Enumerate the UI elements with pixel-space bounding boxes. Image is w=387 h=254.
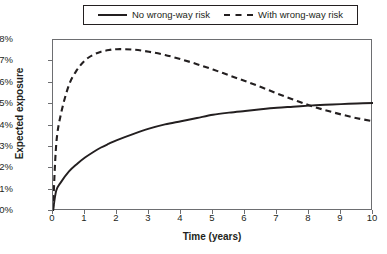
- x-tick-mark: [276, 210, 277, 214]
- x-tick-mark: [52, 210, 53, 214]
- x-tick-mark: [84, 210, 85, 214]
- x-tick-label: 9: [328, 213, 352, 223]
- x-tick-label: 8: [296, 213, 320, 223]
- x-tick-label: 7: [264, 213, 288, 223]
- x-tick-mark: [212, 210, 213, 214]
- y-tick-label: 5%: [0, 98, 13, 108]
- x-tick-mark: [116, 210, 117, 214]
- x-tick-mark: [244, 210, 245, 214]
- x-tick-mark: [372, 210, 373, 214]
- x-tick-mark: [148, 210, 149, 214]
- legend-label-with-wrong-way-risk: With wrong-way risk: [258, 10, 343, 20]
- legend-swatch-solid-line-icon: [98, 14, 127, 16]
- x-tick-label: 10: [360, 213, 384, 223]
- chart-figure: No wrong-way risk With wrong-way risk Ex…: [0, 0, 387, 254]
- y-tick-label: 4%: [0, 120, 13, 130]
- y-tick-label: 1%: [0, 184, 13, 194]
- series-line-no-wrong-way-risk: [53, 103, 373, 211]
- y-tick-label: 8%: [0, 34, 13, 44]
- x-tick-label: 3: [136, 213, 160, 223]
- x-tick-mark: [308, 210, 309, 214]
- chart-legend: No wrong-way risk With wrong-way risk: [83, 5, 358, 25]
- legend-swatch-dashed-line-icon: [224, 14, 253, 16]
- x-tick-label: 4: [168, 213, 192, 223]
- series-line-with-wrong-way-risk: [53, 49, 373, 211]
- plot-area: [52, 39, 372, 210]
- legend-label-no-wrong-way-risk: No wrong-way risk: [132, 10, 210, 20]
- x-tick-mark: [180, 210, 181, 214]
- y-tick-label: 3%: [0, 141, 13, 151]
- y-axis-title: Expected exposure: [14, 39, 25, 189]
- x-tick-label: 0: [40, 213, 64, 223]
- y-tick-label: 2%: [0, 162, 13, 172]
- legend-entry-with-wrong-way-risk: With wrong-way risk: [224, 10, 343, 20]
- x-tick-mark: [340, 210, 341, 214]
- y-tick-label: 7%: [0, 55, 13, 65]
- chart-curves: [53, 40, 373, 211]
- x-axis-title: Time (years): [52, 231, 372, 242]
- x-tick-label: 1: [72, 213, 96, 223]
- x-tick-label: 2: [104, 213, 128, 223]
- y-tick-label: 0%: [0, 205, 13, 215]
- y-tick-label: 6%: [0, 77, 13, 87]
- x-tick-label: 5: [200, 213, 224, 223]
- x-tick-label: 6: [232, 213, 256, 223]
- legend-entry-no-wrong-way-risk: No wrong-way risk: [98, 10, 210, 20]
